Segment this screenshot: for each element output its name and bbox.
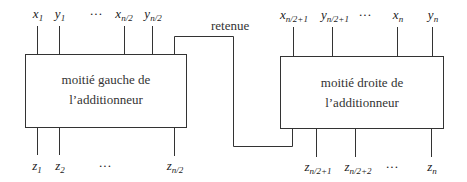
right-box-line1: moitié droite de: [280, 73, 444, 93]
label-zn: zn: [427, 160, 437, 174]
label-yn2p1: yn/2+1: [321, 8, 349, 22]
right-box-line2: l’additionneur: [280, 93, 444, 113]
label-zn2p1: zn/2+1: [304, 160, 331, 174]
label-x1: x1: [33, 7, 43, 21]
left-box-line2: l’additionneur: [25, 90, 187, 110]
label-yn: yn: [428, 8, 438, 22]
label-xn2p1: xn/2+1: [280, 8, 308, 22]
label-z2: z2: [55, 159, 65, 173]
label-ellipsis-right-in: ···: [359, 8, 372, 22]
label-ellipsis-right-out: ···: [386, 160, 399, 174]
label-xn: xn: [393, 8, 403, 22]
label-zn2: zn/2: [167, 159, 184, 173]
left-box-label: moitié gauche de l’additionneur: [25, 70, 187, 110]
label-ellipsis-left-out: ···: [99, 159, 112, 173]
right-box-label: moitié droite de l’additionneur: [280, 73, 444, 113]
carry-label: retenue: [211, 18, 249, 34]
label-ellipsis-left-in: ···: [90, 7, 103, 21]
label-y1: y1: [55, 7, 65, 21]
label-xn2: xn/2: [115, 7, 132, 21]
label-zn2p2: zn/2+2: [344, 160, 371, 174]
carry-wire: [175, 37, 293, 147]
left-box-line1: moitié gauche de: [25, 70, 187, 90]
label-yn2: yn/2: [144, 7, 161, 21]
label-z1: z1: [32, 159, 42, 173]
